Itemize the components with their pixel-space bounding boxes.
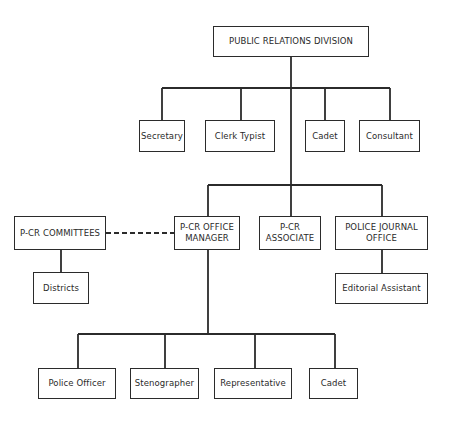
connector-lines: [0, 0, 450, 422]
node-clerk-typist: Clerk Typist: [205, 120, 275, 152]
node-cadet-manager: Cadet: [309, 368, 358, 399]
node-pcr-committees: P-CR COMMITTEES: [14, 216, 106, 250]
node-cadet-staff: Cadet: [305, 120, 345, 152]
node-consultant: Consultant: [359, 120, 420, 152]
node-police-officer: Police Officer: [38, 368, 116, 399]
node-stenographer: Stenographer: [130, 368, 199, 399]
node-editorial-assistant: Editorial Assistant: [335, 273, 428, 304]
node-representative: Representative: [214, 368, 292, 399]
node-pcr-associate: P-CR ASSOCIATE: [259, 216, 321, 250]
node-police-journal-office: POLICE JOURNAL OFFICE: [335, 216, 428, 250]
node-pcr-office-manager: P-CR OFFICE MANAGER: [174, 216, 240, 250]
node-districts: Districts: [33, 272, 89, 304]
node-secretary: Secretary: [139, 120, 185, 152]
node-public-relations-division: PUBLIC RELATIONS DIVISION: [213, 26, 369, 57]
